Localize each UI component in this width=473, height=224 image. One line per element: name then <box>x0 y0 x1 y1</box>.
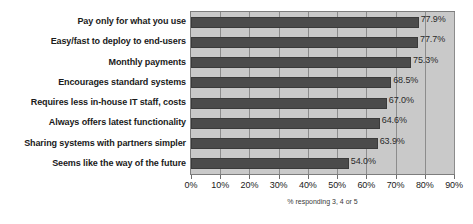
bar-value-label: 54.0% <box>351 156 376 167</box>
bar-row: 64.6% <box>191 113 454 133</box>
bar-series: 77.9%77.7%75.3%68.5%67.0%64.6%63.9%54.0% <box>191 12 454 174</box>
x-axis-title: % responding 3, 4 or 5 <box>190 197 455 207</box>
x-tick-mark <box>279 175 280 179</box>
bar-row: 68.5% <box>191 73 454 93</box>
x-tick-mark <box>366 175 367 179</box>
x-tick-label: 70% <box>387 180 405 191</box>
x-tick-label: 60% <box>357 180 375 191</box>
category-label: Sharing systems with partners simpler <box>24 133 186 153</box>
bar <box>191 37 418 48</box>
x-tick-mark <box>454 175 455 179</box>
x-tick-mark <box>396 175 397 179</box>
category-label: Easy/fast to deploy to end-users <box>51 31 186 51</box>
category-label: Always offers latest functionality <box>49 112 186 132</box>
x-tick-label: 30% <box>270 180 288 191</box>
plot-area: 77.9%77.7%75.3%68.5%67.0%64.6%63.9%54.0% <box>190 11 455 175</box>
x-tick-label: 0% <box>185 180 198 191</box>
x-tick-label: 40% <box>299 180 317 191</box>
category-label: Monthly payments <box>109 52 186 72</box>
category-label: Encourages standard systems <box>58 72 186 92</box>
bar <box>191 98 387 109</box>
x-tick-mark <box>249 175 250 179</box>
x-tick-mark <box>308 175 309 179</box>
category-label: Seems like the way of the future <box>52 153 186 173</box>
category-axis-labels: Pay only for what you useEasy/fast to de… <box>0 11 188 175</box>
bar-row: 77.9% <box>191 12 454 32</box>
bar <box>191 77 391 88</box>
bar <box>191 158 349 169</box>
bar-value-label: 77.7% <box>420 34 445 45</box>
bar-row: 54.0% <box>191 154 454 174</box>
bar-value-label: 68.5% <box>393 75 418 86</box>
bar-value-label: 75.3% <box>413 55 438 66</box>
bar-row: 75.3% <box>191 53 454 73</box>
bar-row: 67.0% <box>191 93 454 113</box>
x-tick-mark <box>220 175 221 179</box>
bar-chart: Pay only for what you useEasy/fast to de… <box>0 0 473 224</box>
x-tick-mark <box>337 175 338 179</box>
bar-row: 63.9% <box>191 134 454 154</box>
bar-row: 77.7% <box>191 32 454 52</box>
x-tick-mark <box>425 175 426 179</box>
bar-value-label: 67.0% <box>389 95 414 106</box>
bar <box>191 118 380 129</box>
gridline <box>454 12 455 174</box>
bar <box>191 138 378 149</box>
bar-value-label: 63.9% <box>380 136 405 147</box>
category-label: Requires less in-house IT staff, costs <box>31 92 186 112</box>
x-tick-label: 20% <box>241 180 259 191</box>
x-tick-label: 10% <box>211 180 229 191</box>
bar-value-label: 77.9% <box>421 14 446 25</box>
x-tick-mark <box>191 175 192 179</box>
bar <box>191 17 419 28</box>
x-tick-label: 80% <box>416 180 434 191</box>
category-label: Pay only for what you use <box>77 11 186 31</box>
x-axis: 0%10%20%30%40%50%60%70%80%90% <box>190 175 455 195</box>
bar <box>191 57 411 68</box>
x-tick-label: 90% <box>445 180 463 191</box>
bar-value-label: 64.6% <box>382 115 407 126</box>
x-tick-label: 50% <box>328 180 346 191</box>
